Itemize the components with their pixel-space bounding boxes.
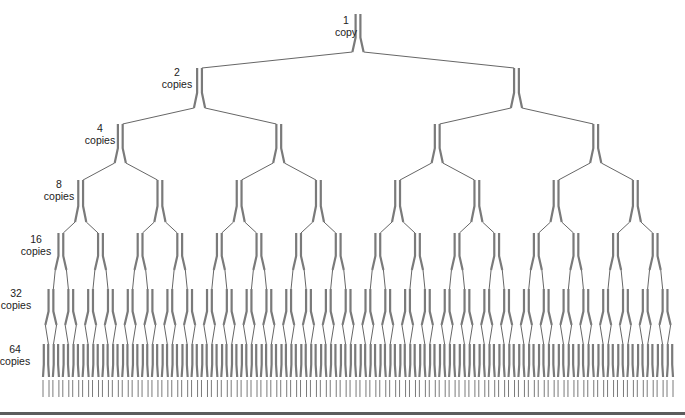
dna-double-strand [479,344,485,397]
branch-line [123,108,194,124]
dna-double-strand [313,180,324,222]
branch-line [521,325,524,344]
dna-double-strand [620,289,631,325]
dna-double-strand [221,344,227,397]
dna-double-strand [172,344,178,397]
branch-line [172,325,175,344]
dna-double-strand [409,344,415,397]
branch-line [568,270,570,289]
dna-double-strand [320,344,326,397]
branch-line [541,325,544,344]
dna-double-strand [303,289,314,325]
dna-double-strand [253,233,264,270]
branch-line [301,222,313,233]
dna-double-strand [471,180,482,222]
branch-line [482,222,494,233]
branch-line [659,325,662,344]
dna-double-strand [263,289,274,325]
dna-double-strand [310,344,316,397]
branch-line [422,325,425,344]
dna-double-strand [560,289,571,325]
branch-line [252,325,255,344]
dna-double-strand [224,289,235,325]
branch-line [265,270,267,289]
branch-line [400,163,432,180]
dna-double-strand [55,233,66,270]
branch-line [562,222,574,233]
count-unit: copies [0,355,31,367]
dna-double-strand [380,344,386,397]
level-label-32-copies: 32copies [0,287,32,311]
dna-double-strand [152,344,158,397]
branch-line [440,108,511,124]
branch-line [83,163,115,180]
branch-line [125,325,128,344]
branch-line [251,270,253,289]
branch-line [648,325,651,344]
branch-line [608,270,610,289]
dna-double-strand [390,344,396,397]
dna-double-strand [558,344,564,397]
dna-double-strand [550,180,561,222]
dna-double-strand [402,289,413,325]
branch-line [582,270,584,289]
dna-double-strand [580,289,591,325]
dna-double-strand [164,289,175,325]
dna-double-strand [422,289,433,325]
branch-line [470,325,473,344]
dna-double-strand [627,344,633,397]
branch-line [450,325,453,344]
dna-double-strand [617,344,623,397]
level-label-4-copies: 4copies [84,122,116,146]
branch-lines [45,52,670,344]
dna-double-strand [588,344,594,397]
branch-line [569,325,572,344]
branch-line [106,270,108,289]
dna-double-strand [75,180,86,222]
dna-double-strand [501,289,512,325]
branch-line [509,325,512,344]
branch-line [202,52,352,68]
branch-line [311,325,314,344]
branch-line [558,163,590,180]
dna-double-strand [548,344,554,397]
dna-double-strand [293,233,304,270]
dna-double-strand [105,289,116,325]
branch-line [380,222,392,233]
dna-double-strand [608,344,614,397]
branch-line [144,325,147,344]
level-label-1-copy: 1copy [330,14,362,38]
branch-line [641,222,653,233]
dna-double-strand [63,344,69,397]
count-number: 16 [20,233,52,245]
dna-double-strand [499,344,505,397]
branch-line [105,325,108,344]
dna-double-strand [382,289,393,325]
branch-line [450,270,452,289]
dna-double-strand [469,344,475,397]
dna-double-strand [419,344,425,397]
dna-double-strand [134,233,145,270]
branch-line [142,222,154,233]
dna-double-strand [291,344,297,397]
dna-double-strand [392,180,403,222]
branch-line [283,325,286,344]
branch-line [243,325,246,344]
branch-line [601,163,633,180]
level-label-64-copies: 64copies [0,343,31,367]
dna-double-strand [637,344,643,397]
branch-line [324,222,336,233]
branch-line [93,270,95,289]
branch-line [93,325,96,344]
dna-double-strand [43,344,49,397]
dna-copies [43,14,673,397]
dna-double-strand [350,344,356,397]
dna-double-strand [647,344,653,397]
branch-line [620,325,623,344]
dna-double-strand [53,344,59,397]
count-number: 64 [0,343,31,355]
branch-line [640,325,643,344]
branch-line [621,270,623,289]
dna-double-strand [360,344,366,397]
branch-line [580,325,583,344]
